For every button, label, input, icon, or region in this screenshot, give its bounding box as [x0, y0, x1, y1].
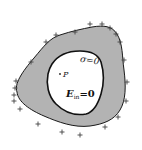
field-label: Ein=0	[65, 88, 95, 100]
field-value: =0	[79, 88, 94, 99]
plus-charge-icon	[12, 99, 17, 104]
plus-charge-icon	[36, 122, 41, 127]
conductor-cavity-diagram: σ=0 P Ein=0	[0, 0, 142, 150]
plus-charge-icon	[18, 107, 23, 112]
point-p-label: P	[62, 70, 69, 79]
plus-charge-icon	[103, 125, 108, 130]
plus-charge-icon	[78, 133, 83, 138]
plus-charge-icon	[88, 22, 93, 27]
point-p-dot	[59, 73, 61, 75]
plus-charge-icon	[60, 130, 65, 135]
plus-charge-icon	[12, 93, 17, 98]
